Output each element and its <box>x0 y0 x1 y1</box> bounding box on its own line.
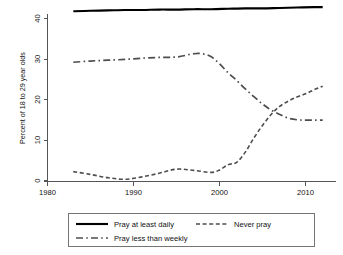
y-tick-label-10: 10 <box>33 136 42 144</box>
legend-label-pray-at-least-daily: Pray at least daily <box>114 220 174 229</box>
legend-border <box>69 214 315 247</box>
legend-label-never-pray: Never pray <box>234 220 271 229</box>
line-chart: 40 30 20 10 0 Percent of 18 to 29 year o… <box>0 0 343 255</box>
y-tick-label-40: 40 <box>33 14 42 22</box>
x-tick-label-1990: 1990 <box>125 188 142 197</box>
y-tick-label-20: 20 <box>33 95 42 103</box>
x-tick-label-2000: 2000 <box>211 188 228 197</box>
y-tick-label-30: 30 <box>33 55 42 63</box>
y-axis-title: Percent of 18 to 29 year olds <box>18 52 27 144</box>
x-tick-label-2010: 2010 <box>297 188 314 197</box>
chart-legend: Pray at least daily Never pray Pray less… <box>69 214 315 247</box>
y-tick-label-0: 0 <box>33 178 42 182</box>
x-tick-label-1980: 1980 <box>39 188 56 197</box>
legend-label-pray-less-than-weekly: Pray less than weekly <box>114 234 188 243</box>
